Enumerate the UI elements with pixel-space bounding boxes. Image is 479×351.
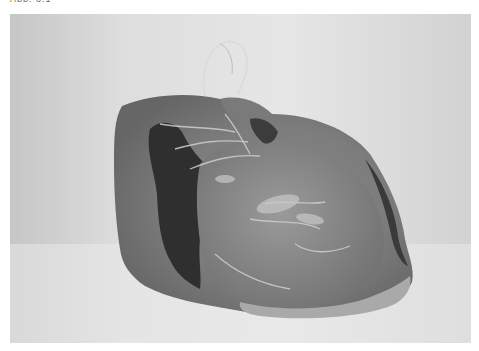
- page: Abb. 3.1: [0, 0, 479, 351]
- bag-illustration: [10, 14, 471, 343]
- photo: [10, 14, 471, 343]
- caption-text: Abb. 3.1: [10, 0, 52, 4]
